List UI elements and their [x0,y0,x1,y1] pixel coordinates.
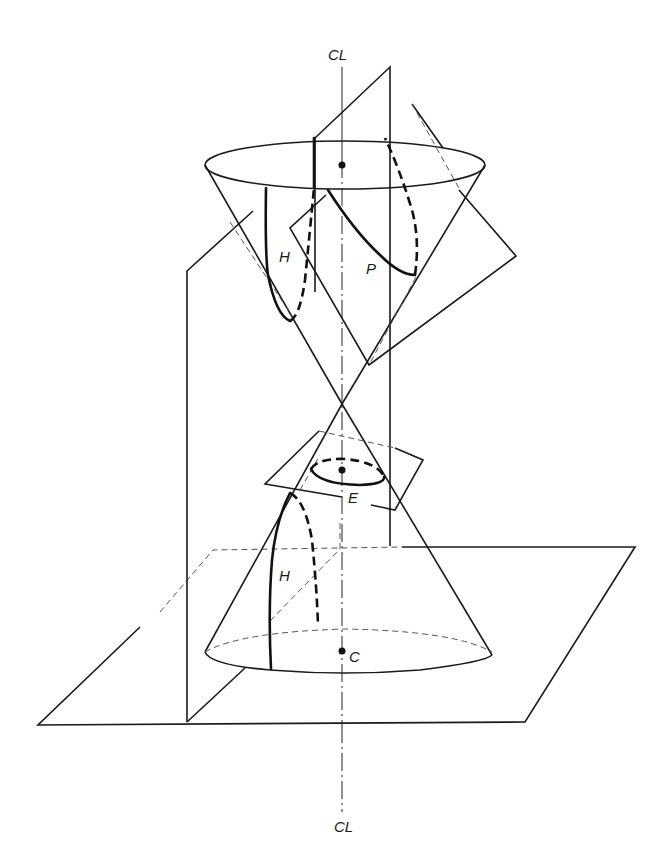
upper-center-dot [339,162,346,169]
upper-cone [205,141,485,404]
centerline [339,67,346,812]
label-ellipse: E [348,489,359,506]
ellipse-solid [311,469,384,485]
ellipse-dashed [311,459,384,477]
label-parabola: P [366,260,376,277]
label-cl-bottom: CL [334,818,353,835]
label-cl-top: CL [328,46,347,63]
lower-cone [205,404,492,673]
conic-sections-diagram: CL CL H P E H C [0,0,663,867]
base-plane [38,520,635,725]
label-hyperbola-lower: H [279,567,290,584]
ellipse-center-dot [339,467,346,474]
base-center-dot [339,648,346,655]
label-hyperbola-upper: H [279,248,290,265]
hyperbola-lower-dashed [290,493,318,626]
label-circle: C [349,648,360,665]
vertical-plane [187,67,390,722]
hyperbola-upper-dashed [290,188,314,321]
